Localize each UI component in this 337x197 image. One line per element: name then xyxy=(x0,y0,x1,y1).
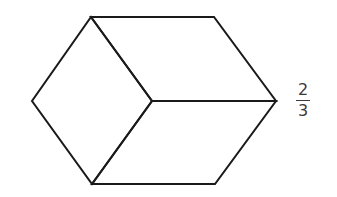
fraction-numerator: 2 xyxy=(296,82,310,98)
left-rhombus xyxy=(32,17,152,184)
bottom-right-rhombus xyxy=(92,101,276,184)
fraction-label: 2 3 xyxy=(296,82,310,119)
top-right-rhombus xyxy=(91,17,276,101)
fraction-denominator: 3 xyxy=(296,103,310,119)
hexagon-cube-diagram xyxy=(0,0,337,197)
